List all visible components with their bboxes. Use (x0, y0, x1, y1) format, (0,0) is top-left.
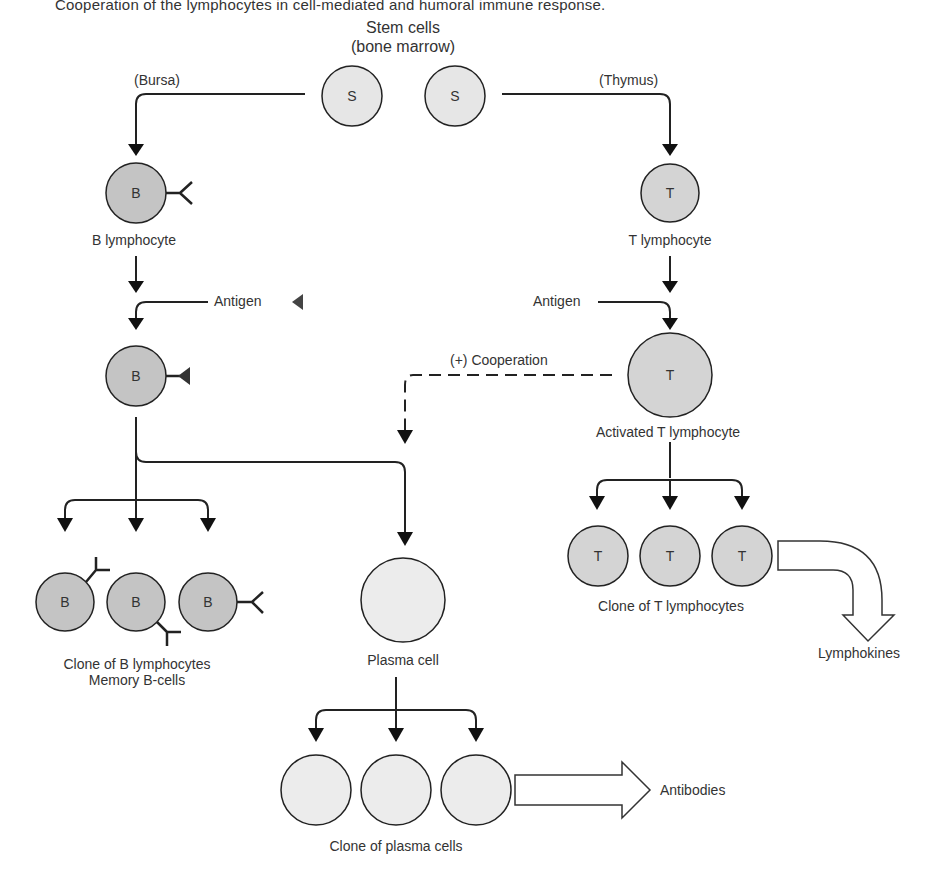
b-lymphocyte-label: B lymphocyte (92, 232, 176, 248)
b-clone-cell-1 (36, 557, 110, 631)
figure-caption-partial: Cooperation of the lymphocytes in cell-m… (55, 0, 605, 13)
activated-t-lymphocyte-label: Activated T lymphocyte (596, 424, 740, 440)
b-clone-label: Clone of B lymphocytes (63, 656, 210, 672)
b-clone-cell-2 (107, 573, 181, 646)
thymus-label: (Thymus) (599, 72, 658, 88)
antibodies-label: Antibodies (660, 782, 725, 798)
b-clone-3-letter: B (203, 594, 212, 610)
t-down-arrow (662, 256, 678, 293)
b-lymphocyte-cell (106, 163, 192, 223)
lymphokines-arrow-icon (778, 541, 894, 641)
t-branch-lines (589, 442, 750, 510)
cooperation-label: (+) Cooperation (450, 352, 548, 368)
plasma-clone-cell-2 (361, 755, 431, 825)
plasma-clone-cell-3 (441, 755, 511, 825)
activated-t-cell-letter: T (666, 367, 675, 383)
t-cell-letter: T (666, 185, 675, 201)
b-antigen-label: Antigen (214, 293, 261, 309)
bound-antigen-icon (178, 367, 190, 385)
cooperation-dashed-arrow (397, 375, 612, 444)
plasma-clone-label: Clone of plasma cells (329, 838, 462, 854)
activated-b-cell-letter: B (131, 368, 140, 384)
antibodies-arrow-icon (515, 762, 650, 818)
thymus-arrow (502, 94, 678, 156)
plasma-cell-label: Plasma cell (367, 652, 439, 668)
antigen-triangle-icon (292, 294, 303, 310)
stem-cells-subtitle: (bone marrow) (351, 39, 455, 55)
t-clone-2-letter: T (666, 548, 675, 564)
b-down-arrow (128, 256, 144, 293)
t-clone-3-letter: T (738, 548, 747, 564)
bursa-arrow (128, 94, 305, 156)
b-clone-cell-3 (179, 573, 263, 631)
t-clone-1-letter: T (594, 548, 603, 564)
memory-b-cells-label: Memory B-cells (89, 672, 185, 688)
t-lymphocyte-label: T lymphocyte (629, 232, 712, 248)
antibody-receptor-icon (166, 182, 192, 204)
lymphokines-label: Lymphokines (818, 645, 900, 661)
plasma-cell (361, 558, 445, 642)
diagram-canvas (0, 0, 952, 877)
b-clone-2-letter: B (131, 594, 140, 610)
bursa-label: (Bursa) (134, 72, 180, 88)
t-clone-label: Clone of T lymphocytes (598, 598, 744, 614)
t-antigen-arrow (598, 302, 678, 330)
b-branch-lines (57, 417, 413, 546)
stem-cell-left-letter: S (347, 88, 356, 104)
activated-b-cell (106, 346, 190, 406)
stem-cell-right-letter: S (450, 88, 459, 104)
stem-cells-title: Stem cells (366, 20, 440, 36)
plasma-clone-cell-1 (281, 755, 351, 825)
b-clone-1-letter: B (60, 594, 69, 610)
plasma-branch-lines (308, 677, 484, 742)
t-antigen-label: Antigen (533, 293, 580, 309)
b-cell-letter: B (131, 185, 140, 201)
